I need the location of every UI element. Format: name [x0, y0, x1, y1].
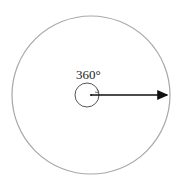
full-rotation-diagram: 360°	[0, 0, 178, 187]
center-point	[90, 94, 92, 96]
angle-arc-arrow-icon	[95, 89, 99, 93]
angle-label: 360°	[76, 67, 101, 82]
